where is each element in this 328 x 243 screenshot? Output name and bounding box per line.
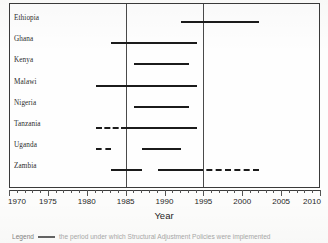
tick-1987 [141, 190, 142, 193]
category-label-uganda: Uganda [14, 141, 37, 149]
tick-label-1990: 1990 [156, 197, 174, 206]
tick-2004 [273, 190, 274, 193]
tick-1999 [234, 190, 235, 193]
tick-2006 [289, 190, 290, 193]
tick-label-1980: 1980 [78, 197, 96, 206]
tick-2001 [250, 190, 251, 193]
tick-1991 [172, 190, 173, 193]
tick-1988 [149, 190, 150, 193]
legend-line-swatch [38, 236, 55, 238]
span-nigeria-1986-1993 [134, 106, 188, 108]
legend: Legend the period under which Structural… [12, 233, 271, 240]
tick-1997 [219, 190, 220, 193]
tick-1976 [56, 190, 57, 193]
span-zambia-1989-1994 [158, 169, 197, 171]
tick-label-1970: 1970 [8, 197, 26, 206]
span-malawi-1981-1994 [96, 85, 197, 87]
span-kenya-1986-1993 [134, 63, 188, 65]
tick-label-2005: 2005 [272, 197, 290, 206]
tick-1989 [157, 190, 158, 193]
span-ethiopia-1992-2002 [181, 21, 259, 23]
tick-2009 [312, 190, 313, 193]
tick-2008 [304, 190, 305, 193]
tick-1986 [133, 190, 134, 193]
tick-1982 [102, 190, 103, 193]
category-label-kenya: Kenya [14, 56, 33, 64]
tick-1980 [87, 190, 88, 196]
tick-1972 [25, 190, 26, 193]
reference-line-1995 [203, 4, 204, 187]
category-label-zambia: Zambia [14, 162, 37, 170]
category-label-ghana: Ghana [14, 35, 33, 43]
tick-2007 [297, 190, 298, 193]
tick-1978 [71, 190, 72, 193]
tick-1970 [9, 190, 10, 196]
tick-1990 [165, 190, 166, 196]
plot-inner [10, 4, 319, 187]
tick-2010 [320, 190, 321, 196]
legend-label: Legend [12, 233, 34, 240]
category-label-malawi: Malawi [14, 78, 37, 86]
tick-2000 [242, 190, 243, 196]
tick-1983 [110, 190, 111, 193]
tick-1975 [48, 190, 49, 196]
span-zambia-1994-2002 [197, 169, 259, 171]
category-label-tanzania: Tanzania [14, 120, 41, 128]
span-uganda-1987-1992 [142, 148, 181, 150]
legend-description: the period under which Structural Adjust… [59, 233, 270, 240]
tick-1973 [32, 190, 33, 193]
span-zambia-1983-1987 [111, 169, 142, 171]
tick-label-1995: 1995 [194, 197, 212, 206]
tick-1977 [63, 190, 64, 193]
x-axis-title: Year [0, 210, 328, 221]
tick-1981 [95, 190, 96, 193]
tick-1993 [188, 190, 189, 193]
tick-1994 [196, 190, 197, 193]
tick-1996 [211, 190, 212, 193]
reference-line-1985 [126, 4, 127, 187]
tick-1971 [17, 190, 18, 193]
span-ghana-1983-1994 [111, 42, 197, 44]
tick-label-1975: 1975 [39, 197, 57, 206]
span-tanzania-1985-1994 [127, 127, 197, 129]
span-uganda-1981-1983 [96, 148, 112, 150]
category-label-ethiopia: Ethiopia [14, 14, 39, 22]
tick-1974 [40, 190, 41, 193]
tick-1992 [180, 190, 181, 193]
plot-area [9, 3, 320, 188]
span-tanzania-1981-1985 [96, 127, 127, 129]
tick-1984 [118, 190, 119, 193]
tick-1985 [126, 190, 127, 196]
category-label-nigeria: Nigeria [14, 99, 36, 107]
tick-2003 [266, 190, 267, 193]
chart-root: EthiopiaGhanaKenyaMalawiNigeriaTanzaniaU… [0, 0, 328, 243]
tick-1995 [203, 190, 204, 196]
tick-2002 [258, 190, 259, 193]
tick-1998 [227, 190, 228, 193]
tick-label-2010: 2010 [303, 197, 321, 206]
tick-2005 [281, 190, 282, 196]
tick-label-1985: 1985 [117, 197, 135, 206]
tick-label-2000: 2000 [233, 197, 251, 206]
tick-1979 [79, 190, 80, 193]
